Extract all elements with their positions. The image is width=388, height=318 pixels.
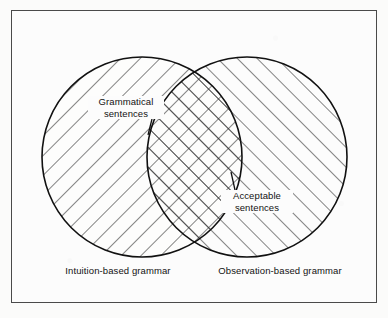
label-grammatical-line2: sentences [89, 108, 163, 120]
label-acceptable-sentences: Acceptable sentences [221, 190, 293, 213]
venn-diagram-screenshot: Grammatical sentences Acceptable sentenc… [0, 0, 388, 318]
caption-observation-based-grammar: Observation-based grammar [196, 265, 364, 277]
label-acceptable-line1: Acceptable [222, 190, 292, 202]
caption-intuition-based-grammar: Intuition-based grammar [47, 265, 189, 277]
label-acceptable-line2: sentences [222, 202, 292, 214]
label-grammatical-line1: Grammatical [89, 96, 163, 108]
label-grammatical-sentences: Grammatical sentences [88, 96, 164, 119]
